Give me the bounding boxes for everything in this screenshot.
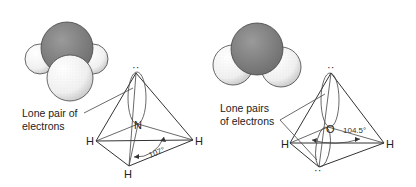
- lone-pairs-label-line2: of electrons: [220, 115, 274, 127]
- bond-angle-label: 104.5°: [343, 126, 366, 135]
- bond-angle-label: 107°: [147, 145, 166, 160]
- hydrogen-label-bottom: H: [124, 168, 132, 180]
- oxygen-sphere: [231, 23, 283, 75]
- hydrogen-label-right: H: [195, 135, 203, 147]
- lone-pair-dots-bottom: ··: [314, 164, 321, 176]
- hydrogen-label-right: H: [386, 138, 394, 150]
- lone-pair-leader-line-top: [280, 94, 325, 120]
- lone-pair-label-line2: electrons: [22, 120, 65, 132]
- lone-pairs-label-line1: Lone pairs: [220, 102, 269, 114]
- hydrogen-label-left: H: [86, 135, 94, 147]
- lone-pair-dots-top: ··: [327, 61, 334, 73]
- molecular-geometry-diagram: ·· N H H H 107° Lone pair of electrons: [0, 0, 416, 187]
- water-space-filling-model: [213, 23, 301, 87]
- hydrogen-label-left: H: [281, 138, 289, 150]
- lone-pair-orbital: [128, 72, 146, 124]
- lone-pair-dots: ··: [132, 61, 139, 73]
- nitrogen-label: N: [134, 119, 142, 131]
- oxygen-label: O: [326, 123, 335, 135]
- ammonia-space-filling-model: [25, 22, 108, 101]
- lone-pair-label-line1: Lone pair of: [22, 107, 78, 119]
- lone-pair-leader-line: [84, 88, 133, 113]
